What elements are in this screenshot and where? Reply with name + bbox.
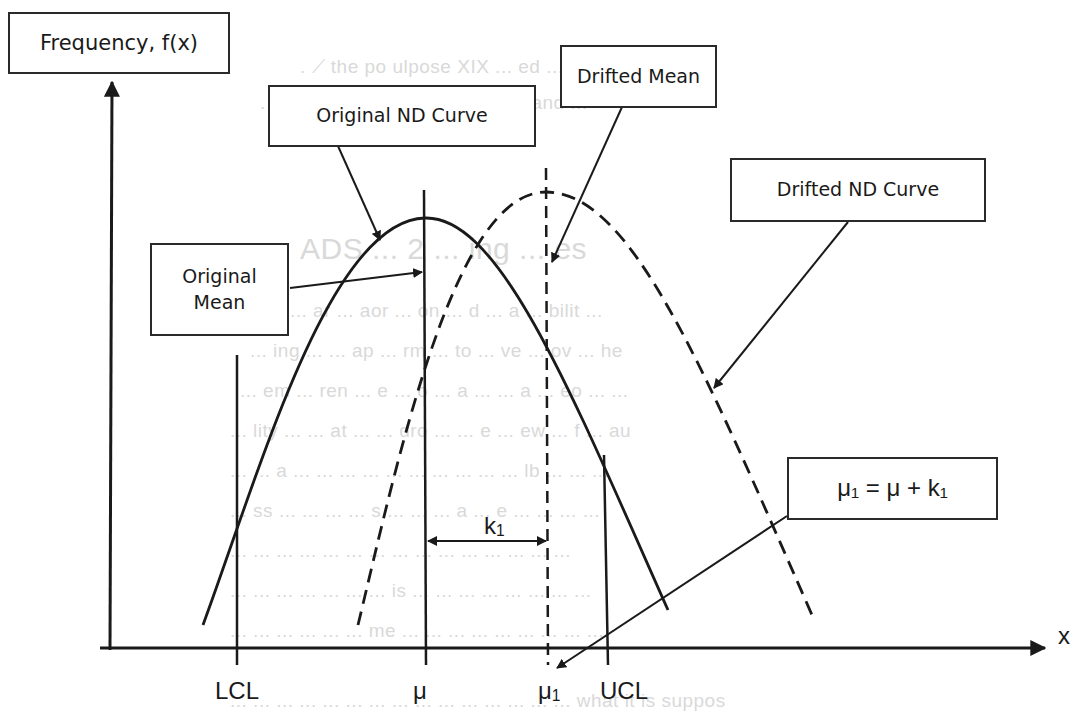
drifted-mean-line: [546, 168, 548, 665]
y-axis-label: Frequency, f(x): [40, 29, 198, 57]
original-mean-label-line1: Original: [182, 264, 256, 290]
pointer-drifted-mean: [552, 107, 622, 262]
relation-formula: μ₁ = μ + k₁: [837, 472, 948, 504]
drifted-mean-callout: Drifted Mean: [560, 45, 717, 108]
ucl-label: UCL: [600, 677, 648, 705]
lcl-label: LCL: [215, 677, 259, 705]
pointer-relation: [557, 516, 787, 668]
k1-label-sub: 1: [496, 522, 505, 539]
drifted-mean-label: Drifted Mean: [577, 64, 700, 90]
x-axis-label: x: [1058, 622, 1070, 650]
k1-label-base: k: [484, 512, 496, 539]
drifted-curve-callout: Drifted ND Curve: [730, 158, 986, 222]
drifted-curve-label: Drifted ND Curve: [777, 177, 939, 203]
original-mean-line: [424, 190, 426, 665]
original-curve-label: Original ND Curve: [316, 103, 487, 129]
k1-label: k1: [484, 512, 505, 540]
pointer-original-mean: [290, 272, 422, 288]
diagram-canvas: [0, 0, 1084, 717]
mu1-label: μ1: [538, 677, 561, 705]
mu1-label-sub: 1: [552, 687, 561, 704]
mu-label: μ: [413, 677, 427, 705]
pointer-original-curve: [338, 146, 380, 240]
pointer-drifted-curve: [714, 222, 848, 388]
original-curve-callout: Original ND Curve: [268, 85, 536, 147]
y-axis: [110, 82, 112, 650]
original-mean-label-line2: Mean: [194, 290, 246, 316]
mu1-label-base: μ: [538, 677, 552, 704]
relation-callout: μ₁ = μ + k₁: [787, 457, 998, 520]
original-mean-callout: Original Mean: [150, 243, 289, 336]
y-axis-label-box: Frequency, f(x): [8, 12, 230, 74]
